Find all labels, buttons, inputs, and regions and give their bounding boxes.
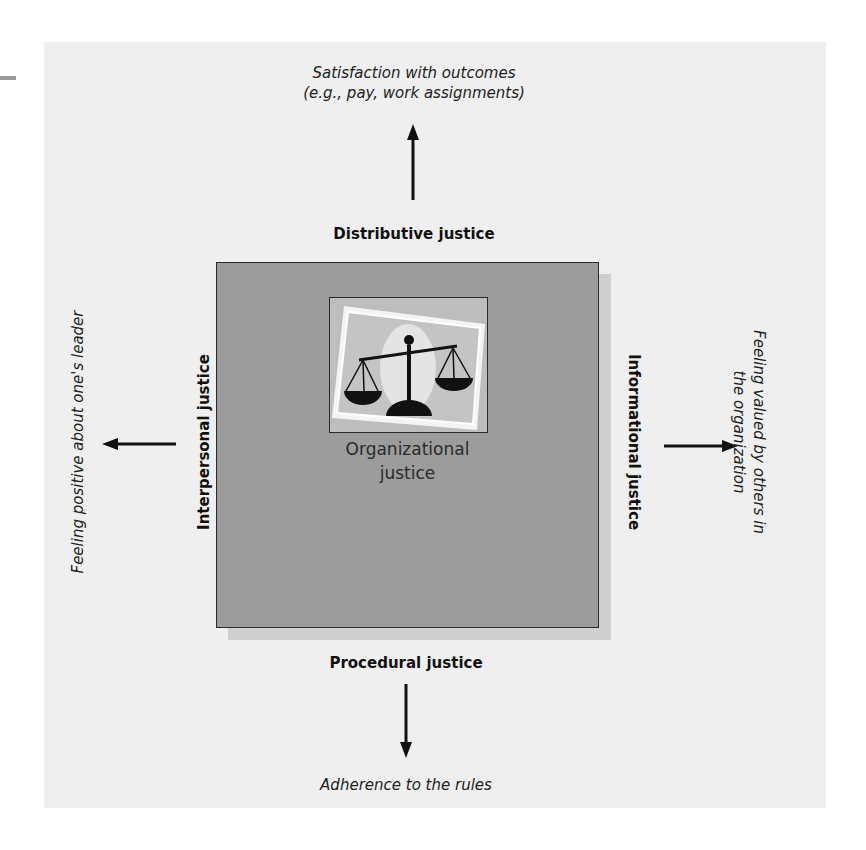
margin-rule [0, 76, 16, 80]
interpersonal-outcome: Feeling positive about one's leader [68, 292, 88, 592]
procedural-outcome: Adherence to the rules [256, 775, 556, 795]
arrow-up-icon [403, 122, 423, 202]
distributive-outcome-line1: Satisfaction with outcomes [264, 63, 564, 83]
distributive-justice-label: Distributive justice [264, 225, 564, 243]
informational-justice-label: Informational justice [625, 342, 643, 542]
arrow-right-icon [660, 436, 740, 456]
center-label-line1: Organizational [217, 437, 598, 461]
center-label-line2: justice [217, 461, 598, 485]
balance-scale-icon [330, 298, 487, 432]
arrow-down-icon [396, 682, 416, 762]
distributive-outcome: Satisfaction with outcomes (e.g., pay, w… [264, 63, 564, 103]
organizational-justice-label: Organizational justice [217, 437, 598, 485]
organizational-justice-box: Organizational justice [216, 262, 599, 628]
interpersonal-justice-label: Interpersonal justice [195, 342, 213, 542]
arrow-left-icon [100, 434, 180, 454]
informational-outcome: Feeling valued by others in the organiza… [729, 307, 769, 557]
scale-picture-frame [329, 297, 488, 433]
procedural-justice-label: Procedural justice [256, 654, 556, 672]
distributive-outcome-line2: (e.g., pay, work assignments) [264, 83, 564, 103]
informational-outcome-line1: Feeling valued by others in [749, 307, 769, 557]
informational-outcome-line2: the organization [729, 307, 749, 557]
